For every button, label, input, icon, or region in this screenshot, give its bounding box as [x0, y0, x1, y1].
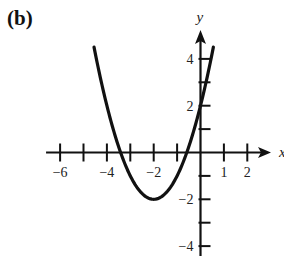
- y-tick-label: 2: [187, 99, 194, 114]
- tick-labels: −6−4−21242−2−4xy: [53, 9, 284, 254]
- y-tick-label: −2: [179, 192, 194, 207]
- axes: [46, 30, 271, 256]
- x-tick-label: 2: [244, 165, 251, 180]
- x-tick-label: −4: [99, 165, 114, 180]
- parabola-plot: −6−4−21242−2−4xy: [0, 0, 284, 256]
- y-tick-label: 4: [187, 52, 194, 67]
- x-tick-label: 1: [220, 165, 227, 180]
- x-tick-label: −6: [53, 165, 68, 180]
- x-tick-label: −2: [146, 165, 161, 180]
- y-axis-label: y: [195, 9, 204, 25]
- y-tick-label: −4: [179, 239, 194, 254]
- x-axis-label: x: [278, 144, 284, 160]
